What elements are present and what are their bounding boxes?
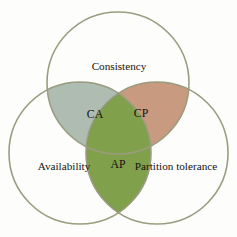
intersection-label-ap: AP: [110, 157, 126, 171]
set-label-consistency: Consistency: [92, 60, 147, 72]
set-circle-partition-tolerance[interactable]: [86, 82, 228, 224]
intersection-label-cp: CP: [134, 106, 149, 120]
cap-theorem-venn-diagram: Consistency Availability Partition toler…: [0, 0, 237, 237]
set-label-partition-tolerance: Partition tolerance: [135, 160, 217, 172]
intersection-label-ca: CA: [87, 107, 104, 121]
venn-diagram-canvas: Consistency Availability Partition toler…: [0, 0, 237, 237]
set-label-availability: Availability: [38, 160, 91, 172]
